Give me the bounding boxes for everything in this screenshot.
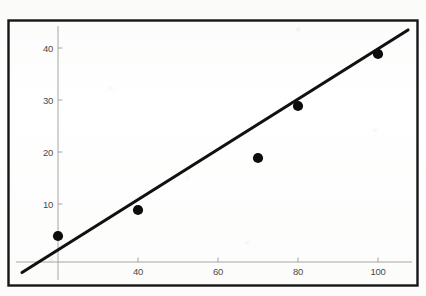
regression-line (22, 30, 408, 273)
y-tick-label-10: 10 (43, 199, 53, 210)
data-point (133, 205, 143, 215)
chart-figure: 40 60 80 100 10 20 30 40 (0, 0, 426, 296)
y-tick-label-40: 40 (43, 43, 53, 54)
scatter-plot-canvas: 40 60 80 100 10 20 30 40 (0, 0, 426, 296)
x-axis-ticks (138, 258, 378, 263)
y-tick-label-30: 30 (43, 95, 53, 106)
y-axis-tick-labels: 10 20 30 40 (43, 43, 53, 210)
y-axis-ticks (58, 48, 63, 204)
y-tick-label-20: 20 (43, 147, 53, 158)
x-tick-label-80: 80 (293, 266, 303, 277)
data-point (253, 153, 263, 163)
x-tick-label-100: 100 (371, 266, 386, 277)
x-tick-label-40: 40 (133, 266, 143, 277)
x-axis-tick-labels: 40 60 80 100 (133, 266, 385, 277)
data-point (373, 49, 383, 59)
x-tick-label-60: 60 (213, 266, 223, 277)
data-point (293, 101, 303, 111)
data-point (53, 231, 63, 241)
